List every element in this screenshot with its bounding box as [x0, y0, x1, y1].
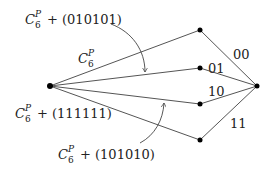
svg-text:+ (111111): + (111111): [37, 106, 112, 121]
svg-text:C: C: [78, 51, 88, 66]
svg-text:P: P: [24, 103, 32, 113]
svg-text:+ (101010): + (101010): [80, 147, 155, 162]
node-mid01: [198, 66, 203, 71]
svg-text:6: 6: [68, 155, 74, 165]
edge-left-mid10: [50, 86, 200, 104]
node-mid10: [198, 102, 203, 107]
svg-text:C: C: [25, 12, 35, 27]
edge-left-mid01: [50, 68, 200, 86]
node-left: [47, 83, 53, 89]
nodes: [47, 28, 260, 143]
edge-label-11: 11: [230, 116, 247, 131]
arrow-010101: [111, 24, 145, 72]
svg-text:+ (010101): + (010101): [47, 12, 122, 27]
node-right: [255, 84, 260, 89]
diagram-canvas: 00 01 10 11 C P 6 + (010101) C P 6 C P 6…: [0, 0, 274, 172]
edge-left-top: [50, 30, 200, 86]
svg-text:C: C: [58, 147, 68, 162]
edges: [50, 30, 257, 140]
label-101010: C P 6 + (101010): [58, 144, 155, 165]
label-111111: C P 6 + (111111): [15, 103, 112, 124]
edge-label-00: 00: [233, 47, 250, 62]
svg-text:P: P: [87, 48, 95, 58]
svg-text:P: P: [67, 144, 75, 154]
node-top: [198, 28, 203, 33]
svg-text:6: 6: [35, 20, 41, 30]
label-010101: C P 6 + (010101): [25, 9, 122, 30]
edge-label-10: 10: [208, 84, 225, 99]
svg-text:6: 6: [25, 114, 31, 124]
node-bot: [198, 138, 203, 143]
svg-text:P: P: [34, 9, 42, 19]
edge-label-01: 01: [208, 61, 225, 76]
label-c6p: C P 6: [78, 48, 95, 69]
svg-text:6: 6: [88, 59, 94, 69]
svg-text:C: C: [15, 106, 25, 121]
